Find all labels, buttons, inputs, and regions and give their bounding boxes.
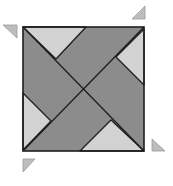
- small-triangle-top-right: [132, 6, 145, 19]
- diagram-canvas: [0, 0, 173, 186]
- small-triangle-bottom-left: [23, 159, 35, 172]
- tiling-diagram: [0, 0, 173, 186]
- small-triangle-top-left: [3, 25, 17, 38]
- small-triangle-bottom-right: [152, 139, 165, 151]
